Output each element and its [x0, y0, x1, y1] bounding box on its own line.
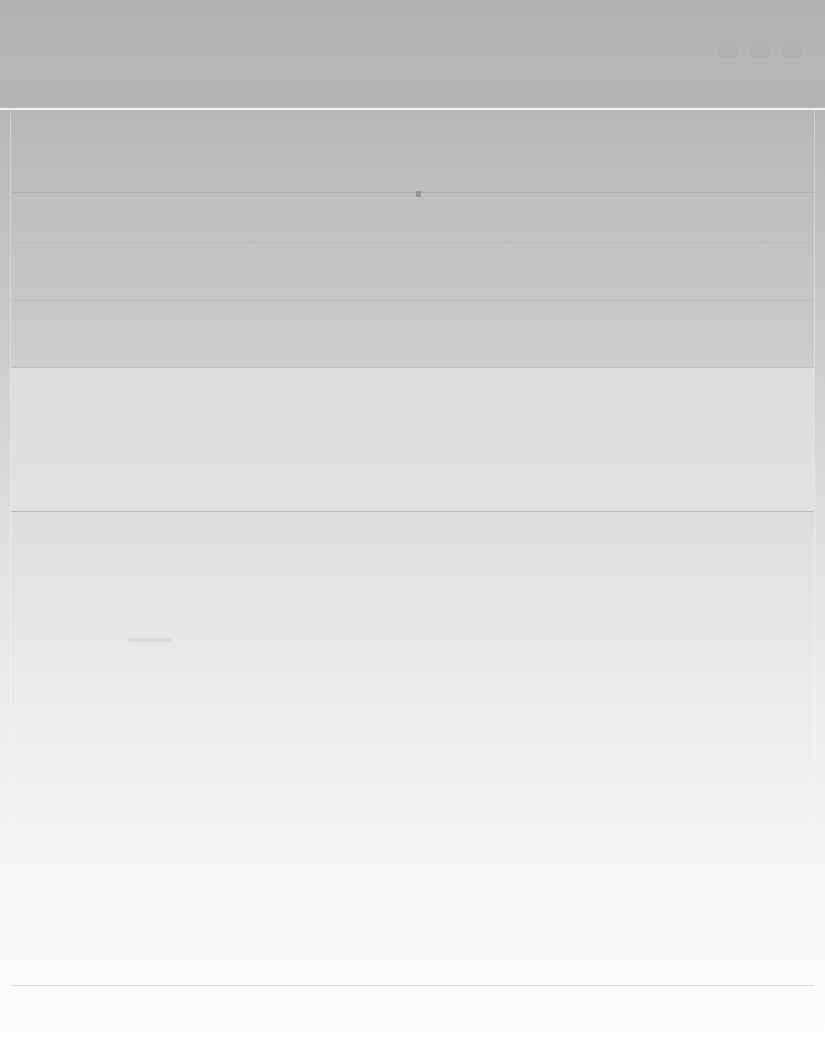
row-divider — [11, 192, 814, 193]
row-divider — [11, 242, 814, 243]
window-controls — [719, 40, 801, 58]
row-divider — [11, 300, 814, 301]
panel-edge-right — [814, 110, 815, 985]
list-item[interactable] — [11, 243, 814, 300]
pointer-marker — [416, 191, 421, 197]
maximize-icon[interactable] — [751, 40, 769, 58]
list-item[interactable] — [11, 112, 814, 192]
list-item[interactable] — [11, 193, 814, 242]
list-item[interactable] — [11, 301, 814, 367]
section-card[interactable] — [11, 367, 814, 512]
close-icon[interactable] — [783, 40, 801, 58]
header-separator — [0, 108, 825, 110]
content-ghost-label — [129, 638, 173, 642]
footer-bar — [0, 986, 825, 1045]
app-window — [0, 0, 825, 1045]
minimize-icon[interactable] — [719, 40, 737, 58]
content-region — [11, 513, 814, 985]
header-bar — [0, 0, 825, 108]
